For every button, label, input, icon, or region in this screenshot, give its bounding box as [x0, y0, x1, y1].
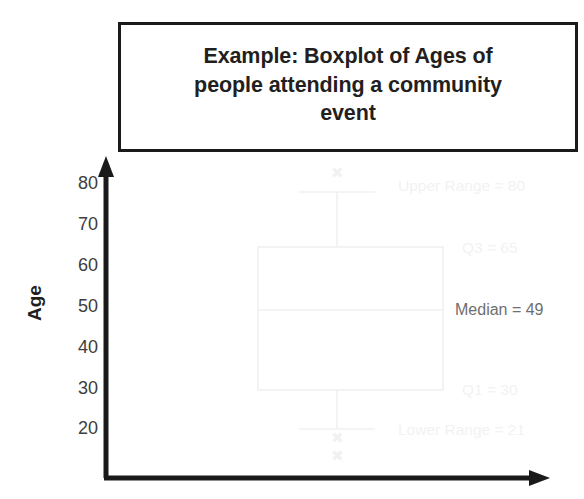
annotation-q1: Q1 = 30 [462, 382, 518, 398]
x-axis [104, 470, 550, 486]
annotation-lower-range: Lower Range = 21 [398, 422, 525, 438]
box-whisker-group [258, 192, 443, 429]
y-axis [98, 156, 114, 478]
annotation-median: Median = 49 [455, 302, 544, 318]
annotation-q3: Q3 = 65 [462, 240, 518, 256]
interquartile-box [258, 247, 443, 390]
marker-upper: ✖ [331, 164, 344, 181]
marker-lower-2: ✖ [331, 447, 344, 464]
annotation-upper-range: Upper Range = 80 [398, 178, 525, 194]
marker-lower-1: ✖ [331, 429, 344, 446]
figure-canvas: Example: Boxplot of Ages of people atten… [0, 0, 584, 499]
